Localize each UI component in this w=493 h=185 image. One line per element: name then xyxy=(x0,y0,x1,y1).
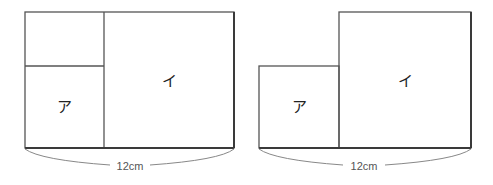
right-dimension-label: 12cm xyxy=(351,160,378,172)
right-brace-left xyxy=(259,149,343,165)
left-figure: ア イ 12cm xyxy=(25,12,234,172)
right-brace-right xyxy=(385,149,471,165)
right-label-i: イ xyxy=(398,72,413,90)
right-label-a: ア xyxy=(292,98,307,116)
left-label-a: ア xyxy=(57,98,72,116)
left-brace-left xyxy=(25,149,110,165)
left-brace-right xyxy=(150,149,234,165)
left-label-i: イ xyxy=(162,72,177,90)
left-outer-rectangle xyxy=(25,12,234,148)
diagram-canvas: ア イ 12cm ア イ 12cm xyxy=(0,0,493,185)
left-dimension-label: 12cm xyxy=(117,160,144,172)
right-figure: ア イ 12cm xyxy=(259,12,471,172)
